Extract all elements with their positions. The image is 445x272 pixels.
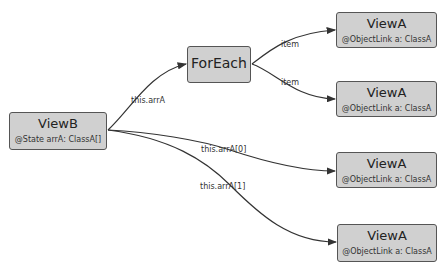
node-viewa-1-sub: @ObjectLink a: ClassA [337,35,436,45]
node-viewa-4-sub: @ObjectLink a: ClassA [338,247,436,257]
node-viewb-sub: @State arrA: ClassA[] [10,135,106,145]
node-viewa-2-sub: @ObjectLink a: ClassA [337,104,436,114]
node-viewa-3-title: ViewA [337,156,436,171]
edge-label-this-arra-0: this.arrA[0] [201,145,246,154]
node-viewa-1-title: ViewA [337,16,436,31]
node-foreach: ForEach [187,46,251,83]
node-viewa-2: ViewA @ObjectLink a: ClassA [336,81,437,117]
edge-label-item-2: item [281,78,299,87]
node-viewa-1: ViewA @ObjectLink a: ClassA [336,12,437,48]
node-viewa-3-sub: @ObjectLink a: ClassA [337,175,436,185]
node-viewa-4: ViewA @ObjectLink a: ClassA [337,224,437,262]
node-foreach-title: ForEach [188,56,250,71]
node-viewb-title: ViewB [10,116,106,131]
node-viewa-3: ViewA @ObjectLink a: ClassA [336,152,437,188]
node-viewb: ViewB @State arrA: ClassA[] [9,112,107,150]
node-viewa-4-title: ViewA [338,228,436,243]
edge-label-item-1: item [281,40,299,49]
edge-label-this-arra-1: this.arrA[1] [200,182,245,191]
edge-label-this-arra: this.arrA [131,96,165,105]
node-viewa-2-title: ViewA [337,85,436,100]
